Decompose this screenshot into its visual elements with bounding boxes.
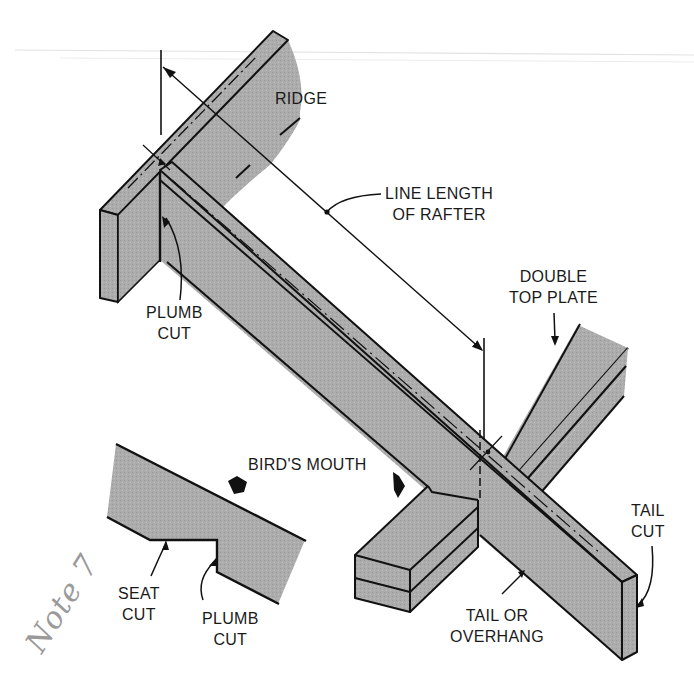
label-plumb-cut-detail: PLUMB CUT (202, 608, 259, 650)
label-line-length-of-rafter: LINE LENGTH OF RAFTER (385, 183, 493, 225)
label-plumb-cut-main: PLUMB CUT (146, 302, 203, 344)
rafter-diagram (0, 0, 694, 685)
label-birds-mouth: BIRD'S MOUTH (248, 454, 367, 475)
label-seat-cut: SEAT CUT (118, 583, 160, 625)
label-double-top-plate: DOUBLE TOP PLATE (509, 266, 598, 308)
label-tail-cut: TAIL CUT (631, 500, 665, 542)
birds-mouth-arrows (228, 472, 405, 498)
label-tail-or-overhang: TAIL OR OVERHANG (450, 605, 544, 647)
scan-lines (15, 50, 694, 62)
label-ridge: RIDGE (275, 88, 327, 109)
